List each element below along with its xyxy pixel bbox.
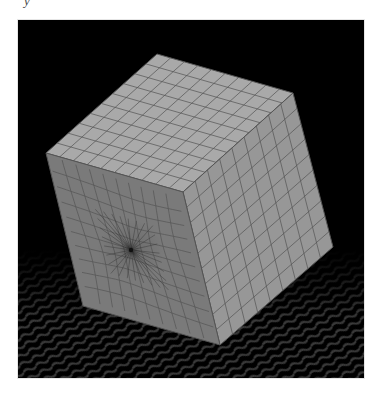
caption-fragment: y bbox=[24, 0, 30, 7]
render-viewport bbox=[18, 20, 364, 378]
cube-render bbox=[18, 20, 364, 378]
figure-stage: y bbox=[0, 0, 380, 398]
